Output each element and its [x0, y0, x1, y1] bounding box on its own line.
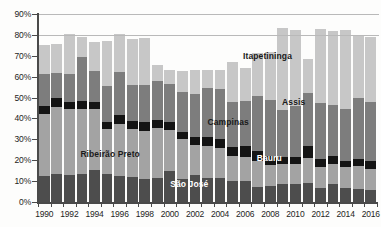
bar-segment: [340, 109, 351, 160]
bar-column: [177, 14, 188, 202]
bar-segment: [353, 35, 364, 97]
bar-segment: [252, 187, 263, 202]
bar-segment: [353, 189, 364, 202]
x-tick-mark: [101, 203, 102, 207]
bar-segment: [290, 30, 301, 106]
y-tick-label: 10%: [0, 176, 31, 186]
bar-segment: [202, 88, 213, 137]
bar-column: [227, 14, 238, 202]
bar-segment: [190, 137, 201, 145]
x-tick-mark: [51, 203, 52, 207]
x-tick-mark: [339, 203, 340, 207]
bar-segment: [102, 41, 113, 87]
bar-segment: [365, 190, 376, 202]
bar-column: [353, 14, 364, 202]
series-label-assis: Assis: [282, 97, 305, 107]
y-tick-label: 20%: [0, 155, 31, 165]
bar-segment: [127, 39, 138, 85]
bar-segment: [315, 188, 326, 202]
x-tick-label: 2016: [356, 209, 381, 219]
bar-segment: [114, 72, 125, 115]
bar-segment: [365, 37, 376, 102]
bar-segment: [190, 70, 201, 93]
bar-segment: [152, 178, 163, 202]
bar-segment: [190, 145, 201, 175]
series-label-campinas: Campinas: [208, 117, 249, 127]
bar-segment: [290, 164, 301, 184]
bar-segment: [353, 159, 364, 166]
bar-segment: [64, 34, 75, 73]
x-tick-mark: [176, 203, 177, 207]
bar-segment: [315, 167, 326, 188]
bar-column: [102, 14, 113, 202]
bar-segment: [177, 139, 188, 178]
bar-segment: [64, 175, 75, 202]
bar-segment: [177, 132, 188, 139]
bar-segment: [227, 181, 238, 202]
bar-segment: [240, 68, 251, 101]
bar-segment: [252, 96, 263, 151]
series-label-bauru: Bauru: [257, 153, 282, 163]
bar-segment: [340, 167, 351, 188]
x-tick-mark: [277, 203, 278, 207]
x-tick-mark: [364, 203, 365, 207]
bar-segment: [240, 181, 251, 202]
bar-segment: [51, 98, 62, 107]
x-tick-mark: [88, 203, 89, 207]
bar-segment: [164, 130, 175, 171]
bar-column: [190, 14, 201, 202]
bar-segment: [290, 184, 301, 202]
x-tick-mark: [38, 203, 39, 207]
bar-segment: [139, 179, 150, 202]
bar-column: [139, 14, 150, 202]
x-tick-mark: [164, 203, 165, 207]
stacked-bar-chart: 0%10%20%30%40%50%60%70%80%90% 1990199219…: [0, 0, 381, 227]
bar-segment: [114, 176, 125, 202]
bar-column: [303, 14, 314, 202]
bar-segment: [290, 157, 301, 164]
bar-segment: [240, 146, 251, 157]
bar-column: [164, 14, 175, 202]
bar-segment: [51, 44, 62, 72]
bar-segment: [277, 184, 288, 202]
bar-column: [315, 14, 326, 202]
bar-segment: [39, 176, 50, 202]
bar-segment: [202, 70, 213, 88]
bar-segment: [265, 100, 276, 156]
bar-segment: [164, 122, 175, 130]
bar-segment: [77, 57, 88, 101]
bar-segment: [340, 161, 351, 167]
bar-column: [290, 14, 301, 202]
bar-segment: [77, 101, 88, 109]
bar-column: [202, 14, 213, 202]
bar-column: [215, 14, 226, 202]
y-tick-label: 90%: [0, 9, 31, 19]
bar-segment: [190, 94, 201, 138]
bar-segment: [265, 186, 276, 202]
bar-segment: [51, 107, 62, 174]
y-axis-line: [37, 13, 39, 203]
bar-column: [64, 14, 75, 202]
bar-segment: [39, 106, 50, 114]
bar-column: [265, 14, 276, 202]
x-tick-mark: [138, 203, 139, 207]
bar-segment: [328, 164, 339, 184]
bar-segment: [139, 122, 150, 131]
bar-segment: [77, 109, 88, 175]
x-tick-mark: [314, 203, 315, 207]
bar-segment: [102, 86, 113, 122]
bar-segment: [89, 71, 100, 102]
bar-column: [365, 14, 376, 202]
bar-segment: [152, 65, 163, 82]
series-label-s-o-jos: São José: [170, 179, 208, 189]
bar-segment: [89, 170, 100, 202]
bar-segment: [177, 71, 188, 92]
bar-column: [240, 14, 251, 202]
bar-segment: [215, 70, 226, 89]
bar-segment: [139, 85, 150, 122]
bar-column: [252, 14, 263, 202]
bar-segment: [164, 84, 175, 122]
bar-column: [51, 14, 62, 202]
y-tick-label: 50%: [0, 93, 31, 103]
bars-layer: [38, 14, 377, 202]
